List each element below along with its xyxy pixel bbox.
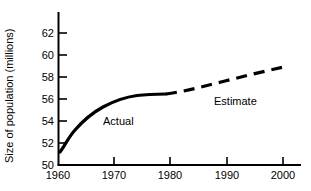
x-tick-label-1990: 1990	[207, 170, 247, 181]
y-axis-title: Size of population (millions)	[4, 28, 15, 163]
x-tick-label-1980: 1980	[150, 170, 190, 181]
series-estimate-line	[166, 67, 284, 94]
y-tick-label-62: 62	[34, 28, 54, 39]
y-tick-label-60: 60	[34, 50, 54, 61]
x-axis-ticks	[114, 157, 283, 165]
series-label-actual: Actual	[103, 116, 134, 127]
y-tick-label-54: 54	[34, 116, 54, 127]
x-tick-label-1960: 1960	[38, 170, 78, 181]
y-tick-label-58: 58	[34, 72, 54, 83]
x-tick-label-2000: 2000	[263, 170, 303, 181]
y-tick-label-56: 56	[34, 94, 54, 105]
series-label-estimate: Estimate	[214, 96, 257, 107]
y-tick-label-52: 52	[34, 138, 54, 149]
population-line-chart: Size of population (millions) 62 60 58 5…	[0, 0, 311, 191]
x-tick-label-1970: 1970	[94, 170, 134, 181]
